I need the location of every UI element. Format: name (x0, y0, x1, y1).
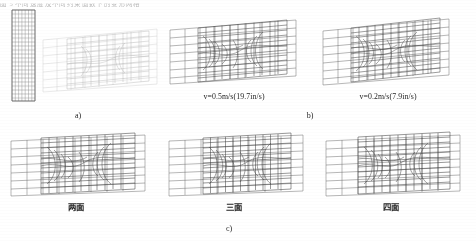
panel-label-b: b) (292, 111, 328, 120)
panel-c1-label: 两面 (46, 203, 106, 212)
panel-label-c: c) (211, 224, 247, 233)
panel-b-left-mesh (167, 14, 299, 89)
velocity-label-0.5: v=0.5m/s(19.7in/s) (176, 92, 292, 101)
panel-c3-mesh (324, 128, 462, 201)
panel-c2-label: 三面 (204, 203, 264, 212)
panel-c2-mesh (167, 129, 305, 201)
cropped-header-text: 图 5 不同速度及不同约束面数下的变形网格 (0, 0, 476, 7)
panel-c1-mesh (9, 129, 147, 201)
panel-label-a: a) (60, 111, 96, 120)
velocity-label-0.2: v=0.2m/s(7.9in/s) (333, 92, 443, 101)
figure-page: 图 5 不同速度及不同约束面数下的变形网格 (0, 0, 476, 241)
panel-a-deformed-mesh (41, 26, 159, 94)
panel-a-reference-mesh (11, 9, 36, 102)
panel-b-right-mesh (320, 13, 452, 89)
panel-c3-label: 四面 (361, 203, 421, 212)
